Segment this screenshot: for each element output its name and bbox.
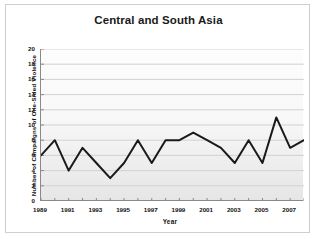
data-series-line <box>41 117 304 178</box>
x-axis-ticks <box>41 198 304 201</box>
y-axis-tick-label: 20 <box>9 45 35 52</box>
y-axis-tick-label: 10 <box>9 121 35 128</box>
y-axis-tick-label: 6 <box>9 151 35 158</box>
y-axis-ticks <box>41 49 44 201</box>
chart-figure: Central and South Asia Number of Campaig… <box>0 0 317 239</box>
y-axis-tick-label: 16 <box>9 75 35 82</box>
x-axis-title: Year <box>36 218 304 225</box>
y-axis-tick-label: 14 <box>9 91 35 98</box>
y-axis-tick-label: 12 <box>9 106 35 113</box>
y-axis-tick-label: 2 <box>9 182 35 189</box>
y-axis-tick-label: 18 <box>9 60 35 67</box>
chart-title: Central and South Asia <box>0 14 317 26</box>
gridlines <box>41 49 304 186</box>
y-axis-tick-label: 4 <box>9 167 35 174</box>
line-chart-svg <box>41 49 304 201</box>
x-axis-tick-label: 2007 <box>272 206 306 213</box>
y-axis-tick-label: 8 <box>9 136 35 143</box>
y-axis-tick-label: 0 <box>9 197 35 204</box>
plot-area <box>40 49 303 201</box>
